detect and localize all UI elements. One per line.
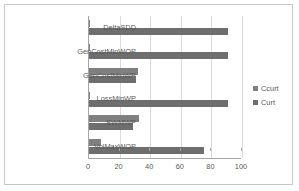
chart-legend: CcurtCurt	[253, 81, 293, 109]
x-axis-tick-mark	[241, 148, 242, 151]
legend-item[interactable]: Curt	[253, 95, 293, 109]
y-axis-label: GenCostMinWP	[46, 71, 136, 80]
plot-area	[88, 16, 241, 159]
x-axis-tick-label: 80	[195, 162, 225, 171]
y-axis-label: LossMinWP	[46, 94, 136, 103]
legend-label: Curt	[261, 98, 275, 107]
legend-item[interactable]: Ccurt	[253, 81, 293, 95]
gridline	[242, 16, 243, 158]
x-axis-tick-label: 20	[104, 162, 134, 171]
x-axis-tick-mark	[180, 148, 181, 151]
x-axis-tick-label: 60	[165, 162, 195, 171]
y-axis-label: VolMaxWOP	[46, 142, 136, 151]
y-axis-label: GenCostMinWOP	[46, 47, 136, 56]
x-axis-tick-label: 0	[73, 162, 103, 171]
x-axis-tick-mark	[210, 148, 211, 151]
legend-swatch-icon	[253, 86, 258, 91]
chart-frame: 020406080100 DeltaSDDGenCostMinWOPGenCos…	[4, 4, 293, 185]
x-axis-tick-label: 40	[134, 162, 164, 171]
legend-swatch-icon	[253, 100, 258, 105]
y-axis-label: SWMWP	[46, 118, 136, 127]
x-axis-tick-mark	[149, 148, 150, 151]
y-axis-label: DeltaSDD	[46, 23, 136, 32]
legend-label: Ccurt	[261, 84, 279, 93]
x-axis-tick-label: 100	[226, 162, 256, 171]
